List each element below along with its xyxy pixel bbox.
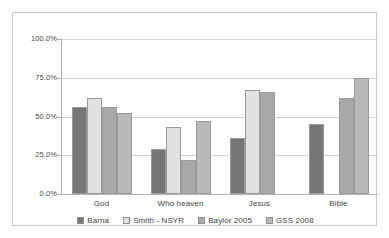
bar [196, 121, 211, 194]
bar [72, 107, 87, 194]
x-axis-category-label: Who heaven [141, 199, 220, 208]
bar-group [220, 39, 299, 194]
bar [245, 90, 260, 194]
legend-item[interactable]: GSS 2008 [266, 216, 314, 225]
bar-slot [245, 39, 260, 194]
bar-group-slots [62, 39, 141, 194]
bar-slot [324, 39, 339, 194]
y-axis-tick-label: 0.0% [13, 190, 57, 198]
y-axis-tick [57, 117, 62, 118]
bar [117, 113, 132, 194]
bar [354, 78, 369, 194]
gridline [62, 194, 378, 195]
bar [166, 127, 181, 194]
bar-group-slots [299, 39, 378, 194]
y-axis-tick-label: 50.0% [13, 113, 57, 121]
bar-slot [181, 39, 196, 194]
bar-slot [354, 39, 369, 194]
bar-slot [275, 39, 290, 194]
bar-chart: 0.0%25.0%50.0%75.0%100.0% GodWho heavenJ… [0, 0, 389, 238]
bar-group [141, 39, 220, 194]
bar-group [62, 39, 141, 194]
bar [309, 124, 324, 194]
legend-item[interactable]: Baylor 2005 [198, 216, 252, 225]
y-axis-tick-label: 75.0% [13, 74, 57, 82]
bar [87, 98, 102, 194]
y-axis-labels: 0.0%25.0%50.0%75.0%100.0% [13, 13, 57, 225]
legend-label: GSS 2008 [276, 216, 314, 225]
legend-swatch-icon [77, 217, 84, 224]
chart-plot-frame: 0.0%25.0%50.0%75.0%100.0% GodWho heavenJ… [12, 12, 377, 226]
x-axis-labels: GodWho heavenJesusBible [62, 199, 378, 208]
x-axis-category-label: Bible [299, 199, 378, 208]
bar-slot [102, 39, 117, 194]
bar [181, 160, 196, 194]
bar-slot [309, 39, 324, 194]
bar [260, 92, 275, 194]
y-axis-tick [57, 155, 62, 156]
legend-swatch-icon [198, 217, 205, 224]
y-axis-tick-label: 100.0% [13, 35, 57, 43]
y-axis-tick-label: 25.0% [13, 151, 57, 159]
legend-item[interactable]: Barna [77, 216, 109, 225]
y-axis-tick [57, 78, 62, 79]
bar [102, 107, 117, 194]
bar [151, 149, 166, 194]
y-axis-tick [57, 194, 62, 195]
bar-slot [196, 39, 211, 194]
bar-groups [62, 39, 378, 194]
y-axis-tick [57, 39, 62, 40]
legend-label: Baylor 2005 [208, 216, 252, 225]
bar [230, 138, 245, 194]
legend-swatch-icon [266, 217, 273, 224]
bar-slot [72, 39, 87, 194]
plot-area [62, 39, 378, 194]
bar [339, 98, 354, 194]
bar-group [299, 39, 378, 194]
bar-group-slots [141, 39, 220, 194]
bar-group-slots [220, 39, 299, 194]
bar-slot [117, 39, 132, 194]
legend-item[interactable]: Smith - NSYR [123, 216, 184, 225]
bar-slot [151, 39, 166, 194]
legend-swatch-icon [123, 217, 130, 224]
legend-label: Barna [87, 216, 109, 225]
bar-slot [260, 39, 275, 194]
bar-slot [230, 39, 245, 194]
x-axis-category-label: Jesus [220, 199, 299, 208]
bar-slot [339, 39, 354, 194]
bar-slot [87, 39, 102, 194]
chart-legend: BarnaSmith - NSYRBaylor 2005GSS 2008 [13, 216, 378, 225]
bar-slot [166, 39, 181, 194]
legend-label: Smith - NSYR [133, 216, 184, 225]
x-axis-category-label: God [62, 199, 141, 208]
